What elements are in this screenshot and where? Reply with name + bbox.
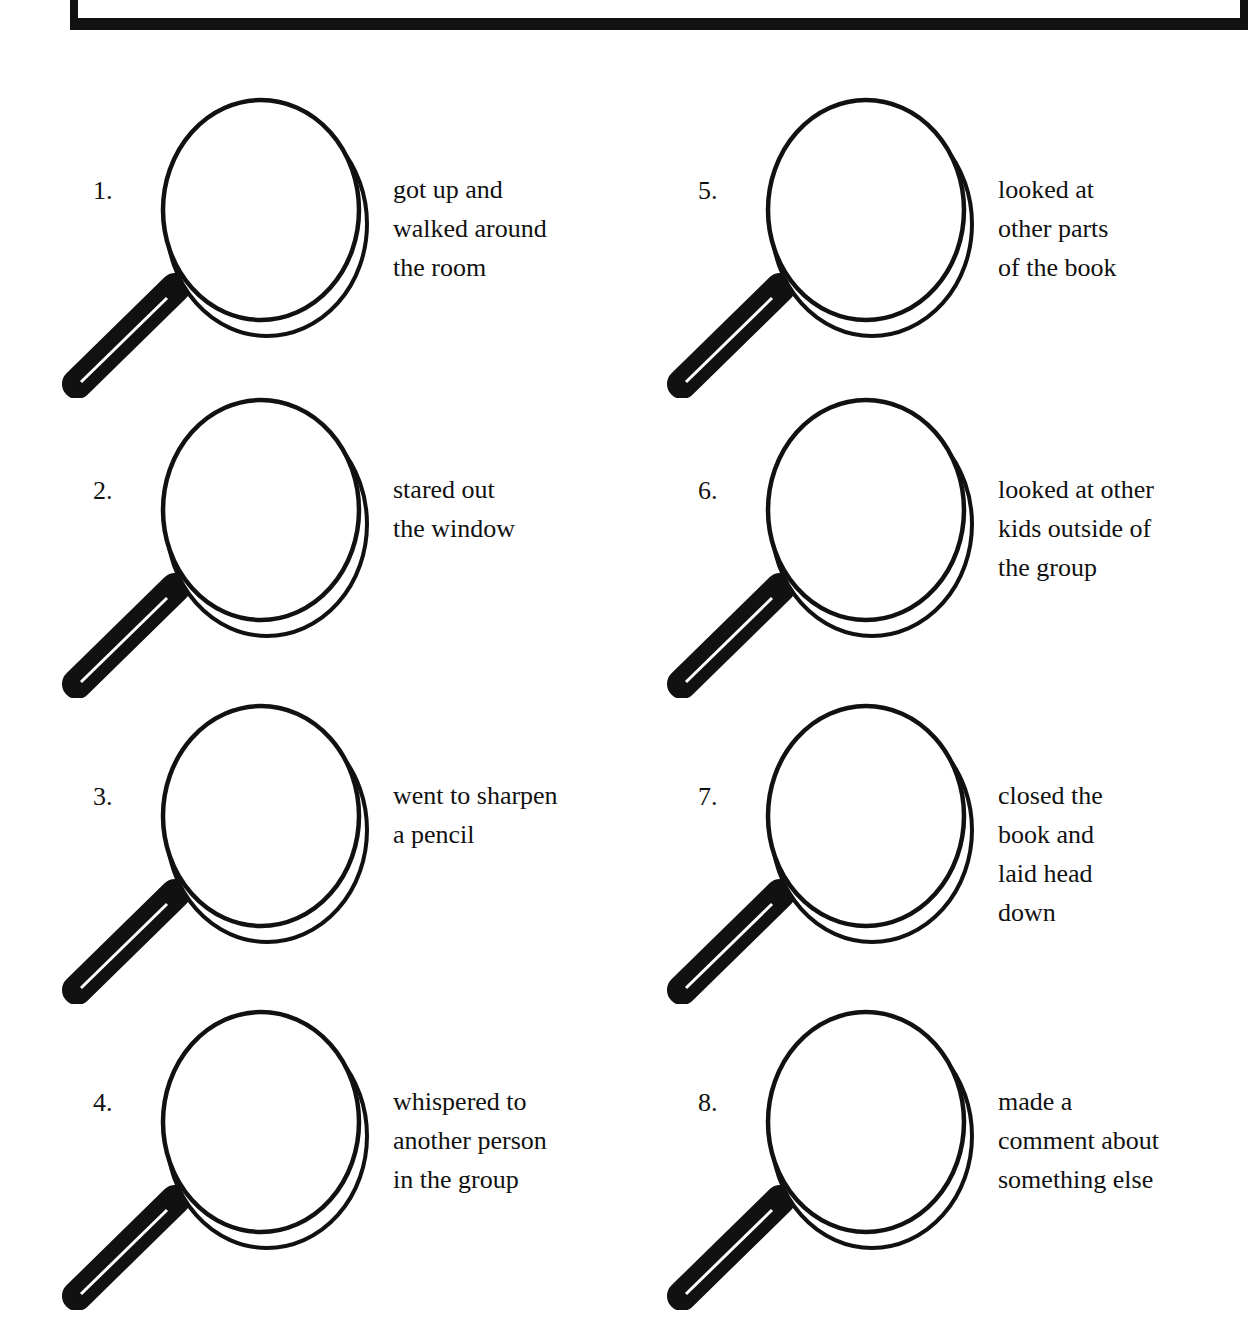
item-number: 7. [698, 782, 718, 812]
magnifying-glass-icon [660, 684, 990, 1004]
caption-line: kids outside of [998, 509, 1228, 548]
magnifying-glass-icon [55, 378, 385, 698]
caption-line: laid head [998, 854, 1228, 893]
worksheet-item-4: 4. whispered toanother personin the grou… [55, 990, 615, 1310]
caption-line: another person [393, 1121, 623, 1160]
caption-line: a pencil [393, 815, 623, 854]
item-number: 2. [93, 476, 113, 506]
magnifying-glass-icon [55, 990, 385, 1310]
caption-line: the window [393, 509, 623, 548]
worksheet-item-2: 2. stared outthe window [55, 378, 615, 698]
caption-line: of the book [998, 248, 1228, 287]
item-caption: went to sharpena pencil [393, 776, 623, 854]
caption-line: looked at other [998, 470, 1228, 509]
caption-line: the room [393, 248, 623, 287]
worksheet-item-1: 1. got up andwalked aroundthe room [55, 78, 615, 398]
magnifying-glass-icon [55, 78, 385, 398]
worksheet-item-6: 6. looked at otherkids outside ofthe gro… [660, 378, 1220, 698]
caption-line: comment about [998, 1121, 1228, 1160]
item-caption: made acomment aboutsomething else [998, 1082, 1228, 1199]
caption-line: down [998, 893, 1228, 932]
worksheet-item-8: 8. made acomment aboutsomething else [660, 990, 1220, 1310]
caption-line: stared out [393, 470, 623, 509]
caption-line: book and [998, 815, 1228, 854]
item-number: 4. [93, 1088, 113, 1118]
header-box-frame [70, 0, 1248, 30]
item-caption: whispered toanother personin the group [393, 1082, 623, 1199]
item-number: 1. [93, 176, 113, 206]
caption-line: looked at [998, 170, 1228, 209]
worksheet-item-7: 7. closed thebook andlaid headdown [660, 684, 1220, 1004]
worksheet-item-5: 5. looked atother partsof the book [660, 78, 1220, 398]
caption-line: walked around [393, 209, 623, 248]
item-caption: looked at otherkids outside ofthe group [998, 470, 1228, 587]
caption-line: whispered to [393, 1082, 623, 1121]
caption-line: something else [998, 1160, 1228, 1199]
item-caption: got up andwalked aroundthe room [393, 170, 623, 287]
item-number: 6. [698, 476, 718, 506]
item-number: 3. [93, 782, 113, 812]
magnifying-glass-icon [660, 78, 990, 398]
worksheet-item-3: 3. went to sharpena pencil [55, 684, 615, 1004]
caption-line: closed the [998, 776, 1228, 815]
magnifying-glass-icon [660, 990, 990, 1310]
item-number: 8. [698, 1088, 718, 1118]
item-caption: closed thebook andlaid headdown [998, 776, 1228, 932]
caption-line: made a [998, 1082, 1228, 1121]
magnifying-glass-icon [55, 684, 385, 1004]
caption-line: other parts [998, 209, 1228, 248]
item-number: 5. [698, 176, 718, 206]
caption-line: got up and [393, 170, 623, 209]
caption-line: in the group [393, 1160, 623, 1199]
magnifying-glass-icon [660, 378, 990, 698]
caption-line: went to sharpen [393, 776, 623, 815]
item-caption: looked atother partsof the book [998, 170, 1228, 287]
item-caption: stared outthe window [393, 470, 623, 548]
caption-line: the group [998, 548, 1228, 587]
